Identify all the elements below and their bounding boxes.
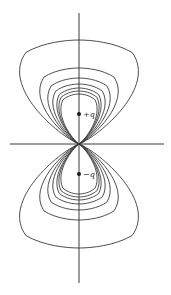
positive-charge-label: +q [83, 110, 95, 119]
positive-charge-dot [77, 112, 81, 116]
dipole-field-diagram: +q −q [0, 0, 171, 295]
negative-charge-label: −q [83, 170, 95, 179]
negative-charge-dot [77, 172, 81, 176]
